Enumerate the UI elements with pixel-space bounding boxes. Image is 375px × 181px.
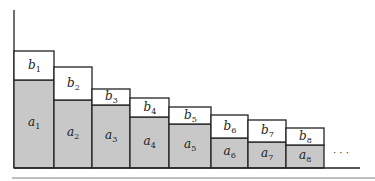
ellipsis: · · ·	[333, 147, 349, 158]
staircase-diagram: b1a1b2a2b3a3b4a4b5a5b6a6b7a7b8a8 · · ·	[0, 0, 375, 181]
bars-group: b1a1b2a2b3a3b4a4b5a5b6a6b7a7b8a8	[14, 51, 324, 168]
